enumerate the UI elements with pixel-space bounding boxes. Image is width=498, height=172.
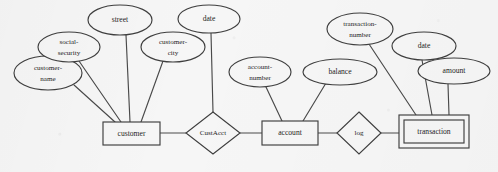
attribute-label-balance: balance xyxy=(328,67,352,76)
edge-social-security xyxy=(79,61,121,122)
relationship-label-log: log xyxy=(354,129,364,137)
entity-account[interactable]: account xyxy=(262,121,318,145)
entity-label-account: account xyxy=(278,128,303,137)
attribute-transaction-number[interactable]: transaction-number xyxy=(327,13,393,45)
attribute-street[interactable]: street xyxy=(88,5,152,35)
edge-amount xyxy=(448,84,449,115)
edge-customer-city xyxy=(141,61,163,122)
attribute-label-amount: amount xyxy=(443,66,467,75)
er-diagram-svg: customer-namesocial-securitystreetcustom… xyxy=(0,0,498,172)
attribute-transaction-date[interactable]: date xyxy=(392,32,456,60)
attribute-label-customer-date: date xyxy=(203,14,216,23)
entity-label-customer: customer xyxy=(118,129,146,138)
attribute-customer-date[interactable]: date xyxy=(178,5,240,33)
attribute-ellipse-transaction-number xyxy=(327,13,393,45)
relationship-label-custacct: CustAcct xyxy=(200,129,226,137)
attribute-label-transaction-date: date xyxy=(418,41,431,50)
attribute-amount[interactable]: amount xyxy=(418,58,490,84)
attributes-layer: customer-namesocial-securitystreetcustom… xyxy=(14,5,490,90)
entities-layer: customeraccounttransaction xyxy=(103,115,469,148)
er-diagram-canvas: customer-namesocial-securitystreetcustom… xyxy=(0,0,498,172)
attribute-account-number[interactable]: account-number xyxy=(229,57,291,87)
entity-label-transaction: transaction xyxy=(417,127,451,136)
attribute-balance[interactable]: balance xyxy=(303,59,377,85)
attribute-customer-city[interactable]: customer-city xyxy=(141,32,205,62)
attribute-social-security[interactable]: social-security xyxy=(38,32,100,62)
edge-street xyxy=(126,35,130,122)
edge-date-custacct xyxy=(211,33,213,112)
entity-transaction[interactable]: transaction xyxy=(399,115,469,148)
attribute-ellipse-account-number xyxy=(229,57,291,87)
edge-account-number xyxy=(266,87,282,121)
relationship-custacct[interactable]: CustAcct xyxy=(186,112,240,154)
attribute-ellipse-customer-city xyxy=(141,32,205,62)
entity-customer[interactable]: customer xyxy=(103,122,160,145)
edge-balance xyxy=(303,83,326,121)
attribute-label-street: street xyxy=(112,15,129,24)
relationship-log[interactable]: log xyxy=(337,112,381,154)
attribute-ellipse-social-security xyxy=(38,32,100,62)
